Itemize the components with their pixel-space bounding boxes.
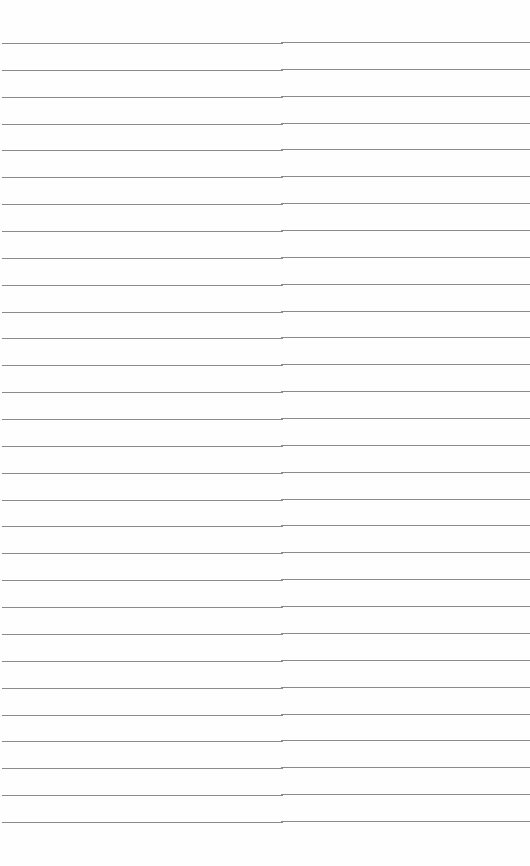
ruled-line xyxy=(281,740,530,741)
ruled-line xyxy=(281,337,530,338)
ruled-line xyxy=(2,553,283,554)
ruled-line xyxy=(281,203,530,204)
lined-paper-sheet xyxy=(0,0,530,866)
ruled-line xyxy=(281,552,530,553)
ruled-line xyxy=(281,687,530,688)
ruled-line xyxy=(281,767,530,768)
ruled-line xyxy=(2,607,283,608)
ruled-line xyxy=(281,123,530,124)
ruled-line xyxy=(281,257,530,258)
ruled-line xyxy=(2,741,283,742)
ruled-line xyxy=(281,794,530,795)
ruled-line xyxy=(281,499,530,500)
ruled-line xyxy=(2,43,283,44)
ruled-line xyxy=(281,284,530,285)
ruled-line xyxy=(281,230,530,231)
ruled-line xyxy=(2,177,283,178)
ruled-line xyxy=(2,768,283,769)
ruled-line xyxy=(2,473,283,474)
ruled-line xyxy=(2,526,283,527)
ruled-line xyxy=(2,446,283,447)
ruled-line xyxy=(281,176,530,177)
ruled-line xyxy=(2,661,283,662)
ruled-line xyxy=(2,338,283,339)
ruled-line xyxy=(281,445,530,446)
ruled-line xyxy=(281,606,530,607)
ruled-line xyxy=(2,500,283,501)
ruled-line xyxy=(2,70,283,71)
ruled-line xyxy=(2,419,283,420)
ruled-line xyxy=(2,580,283,581)
ruled-line xyxy=(281,311,530,312)
ruled-line xyxy=(281,633,530,634)
ruled-line xyxy=(2,150,283,151)
ruled-line xyxy=(2,97,283,98)
ruled-line xyxy=(2,231,283,232)
ruled-line xyxy=(281,418,530,419)
ruled-line xyxy=(281,472,530,473)
ruled-line xyxy=(2,688,283,689)
ruled-line xyxy=(2,124,283,125)
ruled-line xyxy=(281,96,530,97)
ruled-line xyxy=(281,579,530,580)
ruled-line xyxy=(281,149,530,150)
ruled-line xyxy=(281,525,530,526)
ruled-line xyxy=(2,715,283,716)
ruled-line xyxy=(281,714,530,715)
ruled-line xyxy=(2,634,283,635)
ruled-line xyxy=(281,391,530,392)
ruled-line xyxy=(2,365,283,366)
ruled-line xyxy=(2,285,283,286)
ruled-line xyxy=(2,204,283,205)
ruled-line xyxy=(281,821,530,822)
ruled-line xyxy=(281,660,530,661)
ruled-line xyxy=(2,392,283,393)
ruled-line xyxy=(2,312,283,313)
ruled-line xyxy=(281,69,530,70)
ruled-line xyxy=(281,364,530,365)
ruled-line xyxy=(2,822,283,823)
ruled-line xyxy=(2,258,283,259)
ruled-line xyxy=(281,42,530,43)
ruled-line xyxy=(2,795,283,796)
